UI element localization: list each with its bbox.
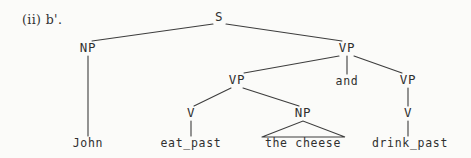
edge-vpl-vl (194, 88, 231, 106)
edge-vptop-vpl (244, 56, 339, 73)
terminal-the-cheese: the cheese (265, 138, 341, 150)
terminal-john: John (73, 138, 104, 150)
node-s: S (215, 11, 223, 24)
conjunction-and: and (336, 76, 359, 88)
node-np-object: NP (295, 107, 311, 120)
edge-vptop-vpr (354, 56, 402, 73)
terminal-drink-past: drink_past (372, 138, 448, 150)
edge-s-np1 (92, 24, 213, 41)
node-v-right: V (404, 107, 412, 120)
node-np-subject: NP (80, 42, 96, 55)
node-vp-right: VP (400, 74, 416, 87)
np2-triangle (262, 121, 345, 137)
node-vp-top: VP (339, 42, 355, 55)
node-v-left: V (187, 107, 195, 120)
syntax-tree-figure: (ii) b'. S NP VP VP VP V NP V and John e… (0, 0, 471, 158)
edge-s-vptop (226, 24, 342, 41)
terminal-eat-past: eat_past (161, 138, 222, 150)
node-vp-left: VP (229, 74, 245, 87)
edge-vpl-np2 (243, 88, 299, 106)
